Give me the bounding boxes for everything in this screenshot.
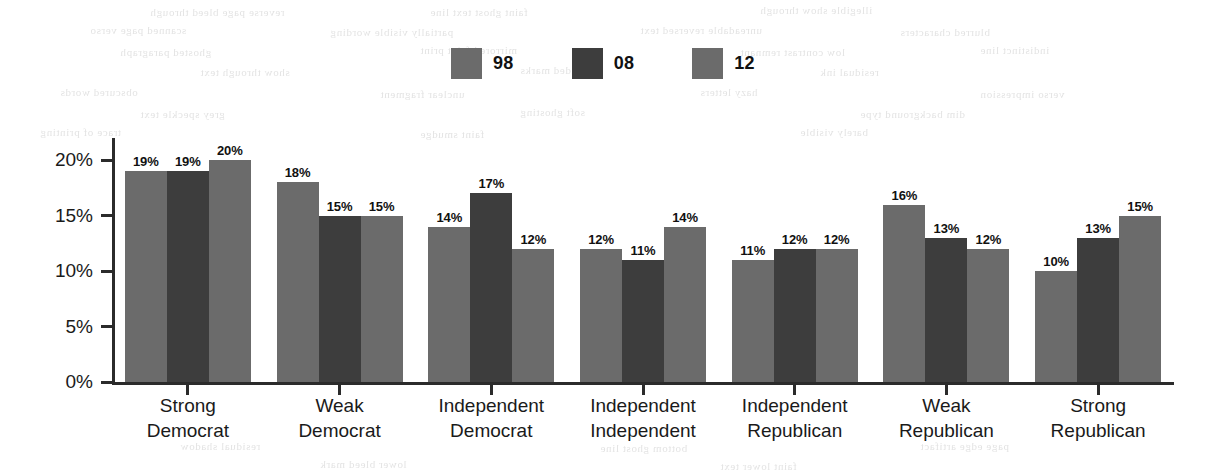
bar-12-6[interactable] — [1119, 216, 1161, 382]
legend-swatch-08 — [572, 48, 603, 79]
bar-98-6[interactable] — [1035, 271, 1077, 382]
bar-value-label: 19% — [175, 154, 201, 169]
bar-98-4[interactable] — [732, 260, 774, 382]
chart-legend: 980812 — [0, 48, 1206, 79]
bar-slot: 15% — [319, 138, 361, 382]
bar-value-label: 11% — [630, 243, 655, 258]
category-label-line: Independent — [415, 393, 567, 418]
bar-slot: 12% — [816, 138, 858, 382]
bar-groups: 19%19%20%18%15%15%14%17%12%12%11%14%11%1… — [112, 138, 1174, 382]
x-axis-category-label: StrongDemocrat — [112, 393, 264, 443]
bar-value-label: 15% — [1127, 199, 1153, 214]
bar-12-4[interactable] — [816, 249, 858, 382]
bar-08-6[interactable] — [1077, 238, 1119, 382]
y-axis-tick-label: 20% — [55, 149, 114, 171]
bar-value-label: 18% — [285, 165, 311, 180]
bar-slot: 18% — [277, 138, 319, 382]
bar-12-5[interactable] — [967, 249, 1009, 382]
bar-08-4[interactable] — [774, 249, 816, 382]
legend-item: 08 — [572, 48, 635, 79]
bar-group-bars: 10%13%15% — [1035, 138, 1161, 382]
bar-value-label: 10% — [1043, 254, 1069, 269]
bar-group: 16%13%12% — [883, 138, 1009, 382]
bar-12-2[interactable] — [512, 249, 554, 382]
category-label-line: Democrat — [415, 418, 567, 443]
bar-group: 18%15%15% — [277, 138, 403, 382]
bar-value-label: 14% — [436, 210, 462, 225]
x-axis-category-label: IndependentRepublican — [719, 393, 871, 443]
legend-label: 12 — [734, 53, 755, 74]
bar-slot: 15% — [1119, 138, 1161, 382]
bar-98-1[interactable] — [277, 182, 319, 382]
bar-98-5[interactable] — [883, 205, 925, 382]
x-axis-category-label: StrongRepublican — [1022, 393, 1174, 443]
bar-group-bars: 12%11%14% — [580, 138, 706, 382]
bar-group-bars: 16%13%12% — [883, 138, 1009, 382]
category-label-line: Republican — [1022, 418, 1174, 443]
category-label-line: Strong — [112, 393, 264, 418]
category-label-line: Weak — [264, 393, 416, 418]
bar-group-bars: 19%19%20% — [125, 138, 251, 382]
bar-group-bars: 18%15%15% — [277, 138, 403, 382]
bar-08-3[interactable] — [622, 260, 664, 382]
x-axis-category-labels: StrongDemocratWeakDemocratIndependentDem… — [112, 393, 1174, 453]
bar-value-label: 13% — [934, 221, 960, 236]
x-axis-category-label: IndependentDemocrat — [415, 393, 567, 443]
bar-value-label: 19% — [133, 154, 159, 169]
bar-slot: 14% — [428, 138, 470, 382]
category-label-line: Democrat — [264, 418, 416, 443]
bar-slot: 16% — [883, 138, 925, 382]
bar-slot: 19% — [167, 138, 209, 382]
y-axis-tick-label: 10% — [55, 260, 114, 282]
bar-slot: 19% — [125, 138, 167, 382]
bar-value-label: 15% — [327, 199, 353, 214]
legend-swatch-98 — [451, 48, 482, 79]
bar-group-bars: 14%17%12% — [428, 138, 554, 382]
bar-value-label: 12% — [520, 232, 546, 247]
bar-value-label: 17% — [478, 176, 504, 191]
bar-value-label: 12% — [588, 232, 614, 247]
bar-08-1[interactable] — [319, 216, 361, 382]
bar-98-2[interactable] — [428, 227, 470, 382]
legend-item: 12 — [692, 48, 755, 79]
bar-value-label: 15% — [369, 199, 395, 214]
category-label-line: Republican — [719, 418, 871, 443]
legend-swatch-12 — [692, 48, 723, 79]
bar-12-3[interactable] — [664, 227, 706, 382]
legend-label: 08 — [614, 53, 635, 74]
bar-slot: 12% — [512, 138, 554, 382]
bar-value-label: 12% — [782, 232, 808, 247]
bar-slot: 12% — [774, 138, 816, 382]
bar-group: 14%17%12% — [428, 138, 554, 382]
category-label-line: Weak — [871, 393, 1023, 418]
x-axis-category-label: WeakDemocrat — [264, 393, 416, 443]
legend-item: 98 — [451, 48, 514, 79]
bar-value-label: 12% — [824, 232, 850, 247]
bar-value-label: 12% — [976, 232, 1002, 247]
bar-slot: 17% — [470, 138, 512, 382]
bar-slot: 12% — [967, 138, 1009, 382]
bar-98-0[interactable] — [125, 171, 167, 382]
legend-label: 98 — [493, 53, 514, 74]
bar-slot: 15% — [361, 138, 403, 382]
category-label-line: Strong — [1022, 393, 1174, 418]
bar-slot: 20% — [209, 138, 251, 382]
bar-12-0[interactable] — [209, 160, 251, 382]
category-label-line: Independent — [719, 393, 871, 418]
bar-12-1[interactable] — [361, 216, 403, 382]
bar-value-label: 13% — [1085, 221, 1111, 236]
plot-area: 0%5%10%15%20% 19%19%20%18%15%15%14%17%12… — [112, 138, 1174, 382]
grouped-bar-chart: 980812 0%5%10%15%20% 19%19%20%18%15%15%1… — [0, 0, 1206, 472]
bar-group: 10%13%15% — [1035, 138, 1161, 382]
y-axis-tick-label: 15% — [55, 205, 114, 227]
y-axis-tick-label: 0% — [66, 371, 114, 393]
bar-08-5[interactable] — [925, 238, 967, 382]
bar-08-2[interactable] — [470, 193, 512, 382]
x-axis-category-label: IndependentIndependent — [567, 393, 719, 443]
bar-slot: 11% — [622, 138, 664, 382]
bar-slot: 13% — [1077, 138, 1119, 382]
bar-slot: 12% — [580, 138, 622, 382]
bar-08-0[interactable] — [167, 171, 209, 382]
bar-98-3[interactable] — [580, 249, 622, 382]
bar-slot: 13% — [925, 138, 967, 382]
